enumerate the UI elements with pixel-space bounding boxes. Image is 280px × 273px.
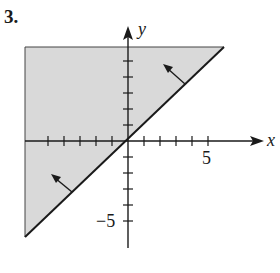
y-tick-label-neg5: −5 <box>96 211 115 231</box>
y-axis-label: y <box>136 19 146 39</box>
x-axis-label: x <box>266 130 275 150</box>
inequality-graph: y x 5 −5 <box>0 0 280 273</box>
x-tick-label-5: 5 <box>202 148 211 168</box>
